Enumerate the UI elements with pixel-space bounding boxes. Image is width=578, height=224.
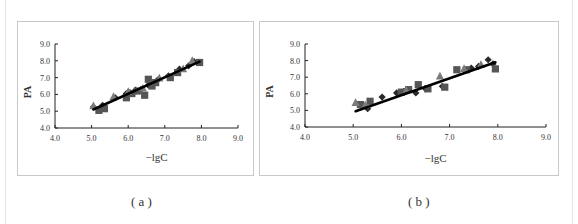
- x-axis-title: −lgC: [145, 151, 167, 163]
- chart-panel-b: 4.05.06.07.08.09.04.05.06.07.08.09.0−lgC…: [259, 21, 559, 176]
- x-tick-label: 4.0: [50, 134, 60, 143]
- data-point-square: [366, 98, 373, 105]
- chart-a-plot: 4.05.06.07.08.09.04.05.06.07.08.09.0−lgC…: [18, 22, 253, 175]
- data-point-square: [453, 66, 460, 73]
- y-tick-label: 9.0: [290, 40, 300, 49]
- x-tick-label: 4.0: [300, 133, 310, 142]
- y-tick-label: 5.0: [290, 106, 300, 115]
- y-axis-title: PA: [264, 84, 275, 97]
- page-left-border: [5, 0, 6, 224]
- data-point-diamond: [485, 56, 492, 63]
- x-tick-label: 7.0: [160, 134, 170, 143]
- x-tick-label: 8.0: [196, 134, 206, 143]
- x-tick-label: 8.0: [493, 133, 503, 142]
- y-tick-label: 8.0: [40, 57, 50, 66]
- y-tick-label: 9.0: [40, 40, 50, 49]
- regression-line: [93, 62, 199, 110]
- x-tick-label: 6.0: [396, 133, 406, 142]
- chart-b-plot: 4.05.06.07.08.09.04.05.06.07.08.09.0−lgC…: [260, 22, 558, 175]
- chart-panel-a: 4.05.06.07.08.09.04.05.06.07.08.09.0−lgC…: [17, 21, 254, 176]
- x-tick-label: 9.0: [233, 134, 243, 143]
- data-point-square: [492, 65, 499, 72]
- x-tick-label: 5.0: [348, 133, 358, 142]
- caption-a: ( a ): [131, 194, 152, 210]
- y-tick-label: 4.0: [290, 123, 300, 132]
- data-point-square: [145, 76, 152, 83]
- y-tick-label: 4.0: [40, 124, 50, 133]
- y-tick-label: 5.0: [40, 107, 50, 116]
- x-tick-label: 9.0: [541, 133, 551, 142]
- x-tick-label: 6.0: [123, 134, 133, 143]
- y-tick-label: 7.0: [40, 74, 50, 83]
- x-tick-label: 5.0: [87, 134, 97, 143]
- page-right-border: [572, 0, 573, 224]
- y-tick-label: 7.0: [290, 73, 300, 82]
- y-tick-label: 8.0: [290, 57, 300, 66]
- y-tick-label: 6.0: [290, 90, 300, 99]
- caption-b: ( b ): [408, 194, 430, 210]
- x-axis-title: −lgC: [424, 152, 446, 164]
- y-axis-title: PA: [22, 85, 33, 98]
- data-point-diamond: [379, 94, 386, 101]
- data-point-triangle: [436, 72, 444, 80]
- regression-line: [356, 62, 496, 111]
- data-point-square: [441, 84, 448, 91]
- y-tick-label: 6.0: [40, 90, 50, 99]
- x-tick-label: 7.0: [445, 133, 455, 142]
- data-point-square: [141, 92, 148, 99]
